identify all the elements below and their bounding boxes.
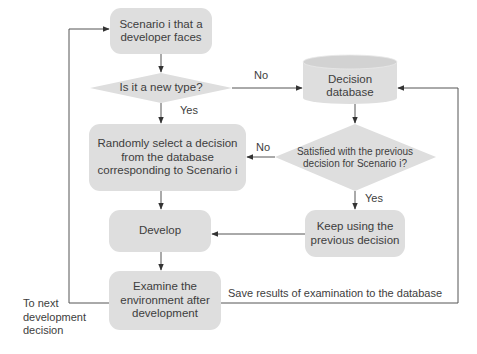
node-examine: Examine the environment after developmen…	[109, 271, 221, 330]
node-scenario: Scenario i that a developer faces	[110, 8, 212, 54]
label-next-line1: To next	[23, 297, 86, 311]
label-satisfied-yes: Yes	[365, 192, 383, 205]
label-new-type-no: No	[254, 69, 268, 82]
node-develop-text: Develop	[139, 224, 181, 238]
node-random-line2: from the database	[98, 151, 238, 165]
label-save-results: Save results of examination to the datab…	[228, 287, 442, 300]
node-new-type-text: Is it a new type?	[119, 81, 202, 95]
node-develop: Develop	[109, 210, 211, 252]
label-next-line3: decision	[23, 324, 86, 338]
node-examine-line1: Examine the	[120, 280, 210, 294]
node-database: Decision database	[303, 70, 397, 102]
node-keep-using: Keep using the previous decision	[305, 210, 405, 257]
node-satisfied-line2: decision for Scenario i?	[297, 158, 413, 171]
node-database-line2: database	[326, 86, 373, 100]
label-next-line2: development	[23, 311, 86, 325]
node-satisfied: Satisfied with the previous decision for…	[290, 144, 420, 172]
node-database-line1: Decision	[326, 73, 373, 87]
node-scenario-line1: Scenario i that a	[119, 18, 202, 32]
label-satisfied-no: No	[256, 141, 270, 154]
node-examine-line3: development	[120, 307, 210, 321]
node-keep-line1: Keep using the	[311, 220, 400, 234]
node-new-type: Is it a new type?	[100, 80, 222, 96]
node-satisfied-line1: Satisfied with the previous	[297, 146, 413, 159]
node-random-line1: Randomly select a decision	[98, 137, 238, 151]
node-random-line3: corresponding to Scenario i	[98, 164, 238, 178]
node-random-select: Randomly select a decision from the data…	[89, 124, 246, 191]
node-scenario-line2: developer faces	[119, 31, 202, 45]
label-next-decision: To next development decision	[23, 297, 86, 338]
node-examine-line2: environment after	[120, 294, 210, 308]
label-new-type-yes: Yes	[180, 104, 198, 117]
edge-examine-to-database	[221, 88, 458, 303]
node-keep-line2: previous decision	[311, 234, 400, 248]
